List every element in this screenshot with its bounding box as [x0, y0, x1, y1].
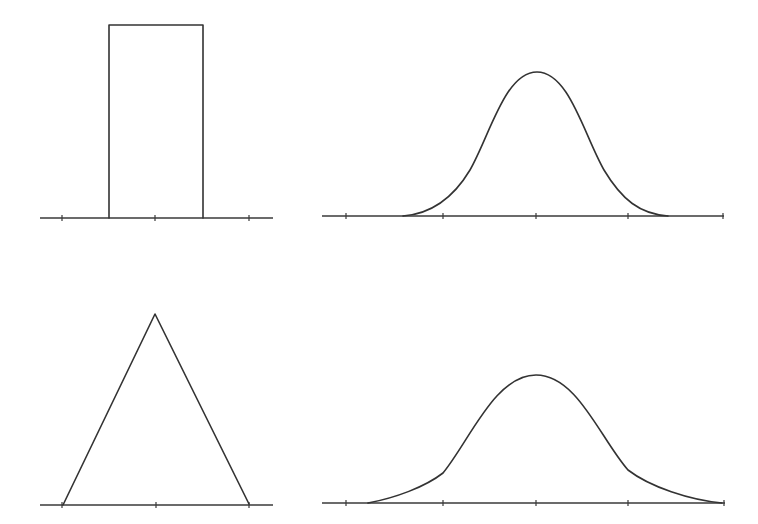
- triangle-shape: [63, 314, 249, 505]
- rectangle-shape: [109, 25, 203, 218]
- smooth-curve-shape: [403, 72, 668, 216]
- piecewise-curve-shape: [368, 375, 722, 503]
- panel-bell-top: [322, 72, 724, 219]
- distribution-diagram: [0, 0, 758, 524]
- panel-uniform: [40, 25, 273, 221]
- panel-triangle: [40, 314, 273, 508]
- panel-bell-bottom: [322, 375, 725, 506]
